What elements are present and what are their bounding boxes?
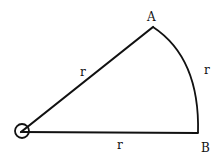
arc-ab-label: r (204, 63, 210, 77)
point-a-label: A (146, 10, 156, 24)
radius-line-oa (21, 27, 153, 132)
radius-oa-label: r (80, 65, 86, 79)
point-b-label: B (201, 141, 210, 155)
radius-ob-label: r (117, 138, 123, 152)
arc-ab (153, 27, 198, 133)
sector-diagram: A B r r r (0, 0, 220, 157)
radius-line-ob (21, 132, 198, 133)
